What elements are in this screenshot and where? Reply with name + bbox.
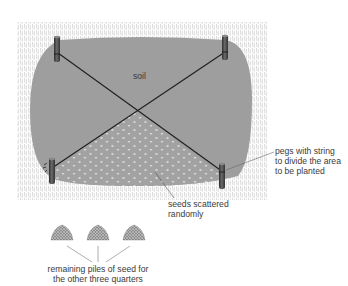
pile-leader-1 — [67, 246, 92, 262]
seed-pile-2 — [87, 225, 109, 240]
seed-pile-3 — [123, 225, 145, 240]
peg-top-left — [54, 36, 60, 62]
planting-diagram — [0, 0, 348, 286]
seeds-callout-line-1: seeds scattered — [168, 199, 229, 209]
pegs-callout-line-3: to be planted — [275, 166, 341, 176]
soil-label: soil — [133, 71, 146, 81]
seeds-callout: seeds scattered randomly — [168, 199, 229, 219]
piles-caption-line-1: remaining piles of seed for — [38, 264, 158, 274]
pegs-callout-line-2: to divide the area — [275, 156, 341, 166]
peg-top-right — [222, 35, 228, 60]
seed-pile-1 — [51, 225, 73, 240]
peg-bottom-right — [219, 163, 225, 189]
piles-caption-line-2: the other three quarters — [38, 274, 158, 284]
pegs-callout: pegs with string to divide the area to b… — [275, 146, 341, 176]
piles-caption: remaining piles of seed for the other th… — [38, 264, 158, 284]
seeds-callout-line-2: randomly — [168, 209, 229, 219]
pegs-callout-line-1: pegs with string — [275, 146, 341, 156]
pile-leader-3 — [106, 246, 130, 262]
